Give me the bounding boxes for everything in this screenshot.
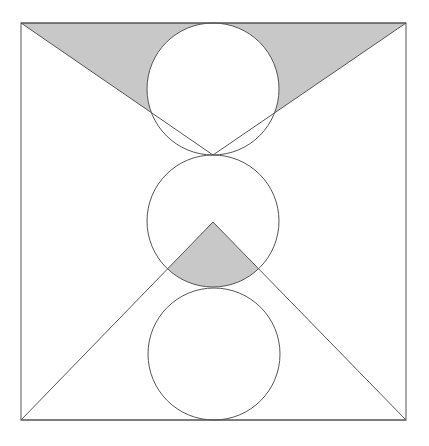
shaded-region-middle [21,222,406,420]
bottom-circle [148,288,280,420]
geometry-diagram [0,0,429,446]
shaded-region-top [21,23,406,155]
